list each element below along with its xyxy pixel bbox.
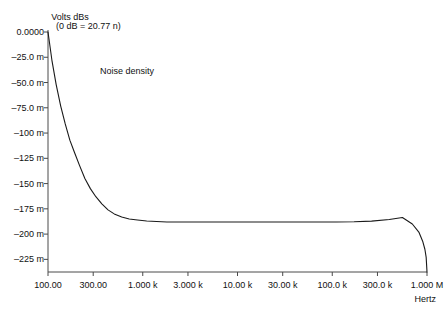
y-axis-tick-label: 0.0000 bbox=[0, 27, 44, 37]
x-axis-title: Hertz bbox=[398, 294, 436, 304]
y-axis-tick-label: –125 m bbox=[0, 153, 44, 163]
x-axis-tick-label: 1.000 M bbox=[397, 280, 448, 290]
db-reference-annotation: (0 dB = 20.77 n) bbox=[56, 21, 121, 31]
y-axis-tick-label: –200 m bbox=[0, 229, 44, 239]
y-axis-tick-label: –75.0 m bbox=[0, 103, 44, 113]
y-axis-tick-label: –50.0 m bbox=[0, 78, 44, 88]
x-axis-ticks bbox=[48, 272, 427, 276]
y-axis-tick-label: –175 m bbox=[0, 204, 44, 214]
y-axis-ticks bbox=[44, 32, 48, 259]
y-axis-tick-label: –25.0 m bbox=[0, 52, 44, 62]
curve-name-label: Noise density bbox=[100, 66, 154, 76]
y-axis-tick-label: –150 m bbox=[0, 179, 44, 189]
y-axis-tick-label: –100 m bbox=[0, 128, 44, 138]
y-axis-tick-label: –225 m bbox=[0, 254, 44, 264]
